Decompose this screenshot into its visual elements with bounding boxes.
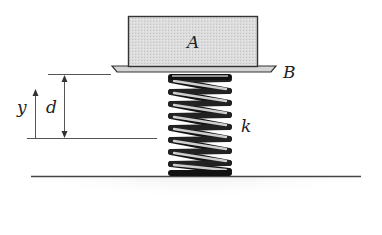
label-y: y	[16, 97, 27, 117]
label-platform-b: B	[282, 62, 296, 82]
label-d: d	[46, 97, 57, 117]
label-spring-k: k	[241, 116, 251, 136]
label-block-a: A	[185, 32, 199, 52]
spring-mass-diagram: A B k d y	[0, 0, 382, 235]
